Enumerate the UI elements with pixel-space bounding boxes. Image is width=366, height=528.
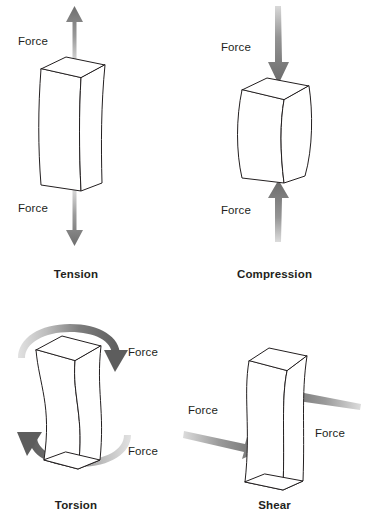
tension-down-arrow-icon xyxy=(66,190,83,246)
torsion-force-label-upper: Force xyxy=(128,347,158,359)
torsion-force-label-lower: Force xyxy=(128,446,158,458)
compression-caption: Compression xyxy=(183,269,366,281)
compression-illustration xyxy=(183,0,366,300)
compression-up-arrow-icon xyxy=(268,180,289,242)
torsion-caption: Torsion xyxy=(0,500,152,512)
tension-force-label-top: Force xyxy=(18,36,48,48)
compression-block xyxy=(238,78,312,183)
compression-force-label-top: Force xyxy=(221,42,251,54)
shear-force-label-right: Force xyxy=(315,428,345,440)
panel-shear: Force Force Shear xyxy=(183,300,366,528)
panel-tension: Force Force Tension xyxy=(0,0,183,300)
tension-up-arrow-icon xyxy=(66,6,83,62)
shear-caption: Shear xyxy=(183,500,366,512)
compression-down-arrow-icon xyxy=(268,6,289,84)
tension-force-label-bottom: Force xyxy=(18,203,48,215)
tension-block xyxy=(39,57,105,191)
panel-torsion: Force Force Torsion xyxy=(0,300,183,528)
shear-force-label-left: Force xyxy=(188,405,218,417)
torsion-illustration xyxy=(0,300,183,528)
panel-compression: Force Force Compression xyxy=(183,0,366,300)
torsion-block xyxy=(36,336,102,469)
tension-caption: Tension xyxy=(0,269,152,281)
stress-types-figure: Force Force Tension xyxy=(0,0,366,528)
compression-force-label-bottom: Force xyxy=(221,205,251,217)
shear-block xyxy=(245,348,307,490)
